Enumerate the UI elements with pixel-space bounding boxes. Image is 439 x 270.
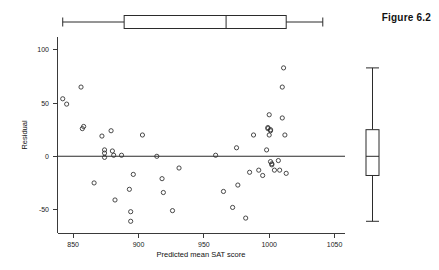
y-axis-title: Residual xyxy=(20,120,29,150)
scatter-point xyxy=(248,170,252,174)
x-axis-ticks: 85090095010001050 xyxy=(67,233,342,248)
scatter-point xyxy=(127,187,131,191)
scatter-point xyxy=(280,116,284,120)
scatter-point xyxy=(257,168,261,172)
x-tick-label: 1050 xyxy=(327,241,343,248)
y-boxplot-box xyxy=(366,130,379,176)
y-tick-label: 0 xyxy=(45,153,49,160)
scatter-point xyxy=(92,181,96,185)
scatter-point xyxy=(264,148,268,152)
scatter-point xyxy=(129,210,133,214)
scatter-point xyxy=(161,190,165,194)
scatter-point xyxy=(100,134,104,138)
x-axis-title: Predicted mean SAT score xyxy=(157,250,246,259)
scatter-point xyxy=(65,102,69,106)
scatter-point xyxy=(131,172,135,176)
x-tick-label: 850 xyxy=(67,241,79,248)
x-boxplot xyxy=(63,16,323,29)
scatter-point xyxy=(251,133,255,137)
scatter-point xyxy=(244,216,248,220)
y-boxplot xyxy=(366,68,379,221)
scatter-point xyxy=(170,209,174,213)
y-axis-ticks: 100500-50 xyxy=(37,46,57,213)
y-tick-label: 100 xyxy=(37,46,49,53)
scatter-point xyxy=(267,133,271,137)
scatter-point xyxy=(110,149,114,153)
x-tick-label: 950 xyxy=(198,241,210,248)
scatter-points xyxy=(61,66,289,224)
scatter-point xyxy=(280,85,284,89)
scatter-point xyxy=(231,205,235,209)
scatter-point xyxy=(129,219,133,223)
scatter-point xyxy=(221,189,225,193)
scatter-point xyxy=(160,177,164,181)
y-tick-label: 50 xyxy=(41,100,49,107)
scatter-point xyxy=(234,146,238,150)
scatter-point xyxy=(261,173,265,177)
residual-scatter-chart: 100500-50 85090095010001050 Predicted me… xyxy=(0,0,439,270)
scatter-point xyxy=(61,97,65,101)
scatter-point xyxy=(278,168,282,172)
y-tick-label: -50 xyxy=(39,206,49,213)
scatter-point xyxy=(113,198,117,202)
scatter-point xyxy=(140,133,144,137)
scatter-point xyxy=(267,113,271,117)
scatter-point xyxy=(177,166,181,170)
x-boxplot-box xyxy=(124,16,286,29)
scatter-point xyxy=(281,66,285,70)
scatter-point xyxy=(272,168,276,172)
scatter-point xyxy=(276,158,280,162)
scatter-point xyxy=(236,183,240,187)
scatter-point xyxy=(79,85,83,89)
x-tick-label: 1000 xyxy=(261,241,277,248)
x-tick-label: 900 xyxy=(133,241,145,248)
scatter-point xyxy=(284,171,288,175)
figure-container: Figure 6.2 100500-50 850900950100010 xyxy=(0,0,439,270)
scatter-point xyxy=(283,133,287,137)
scatter-point xyxy=(109,129,113,133)
